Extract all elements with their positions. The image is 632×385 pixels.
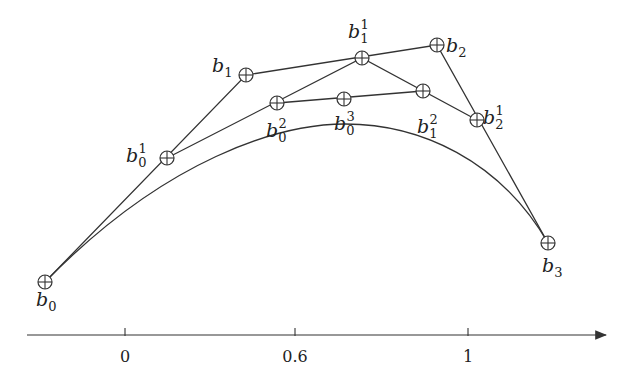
point-b3-marker xyxy=(541,236,555,250)
label-b1: b1 xyxy=(212,54,232,80)
label-b0-1: b01 xyxy=(126,141,147,170)
tick-label-0: 0 xyxy=(120,347,130,366)
label-b1-1: b11 xyxy=(348,17,369,46)
label-b0: b0 xyxy=(36,288,56,314)
control-polygon xyxy=(45,45,548,282)
point-b1-2-marker xyxy=(416,84,430,98)
bezier-curve xyxy=(45,124,548,282)
point-b0-3-marker xyxy=(337,92,351,106)
point-b2-marker xyxy=(430,38,444,52)
point-markers xyxy=(38,38,555,289)
point-labels: b0 b1 b2 b3 b01 b11 b21 b02 b12 b03 xyxy=(36,17,562,314)
label-b3: b3 xyxy=(542,254,562,280)
point-b1-1-marker xyxy=(355,51,369,65)
tick-label-1: 1 xyxy=(463,347,473,366)
point-b0-marker xyxy=(38,275,52,289)
label-b2-1: b21 xyxy=(483,103,504,132)
label-b0-2: b02 xyxy=(266,116,287,145)
point-b2-1-marker xyxy=(470,113,484,127)
point-b0-2-marker xyxy=(270,96,284,110)
label-b2: b2 xyxy=(446,34,466,60)
de-casteljau-diagram: 0 0.6 1 b0 b1 b2 b3 b01 b11 b21 b02 b12 … xyxy=(0,0,632,385)
axis-ticks: 0 0.6 1 xyxy=(120,328,473,366)
tick-label-0.6: 0.6 xyxy=(282,347,307,366)
point-b0-1-marker xyxy=(160,151,174,165)
label-b1-2: b12 xyxy=(417,112,438,141)
label-b0-3: b03 xyxy=(334,109,355,138)
point-b1-marker xyxy=(239,68,253,82)
